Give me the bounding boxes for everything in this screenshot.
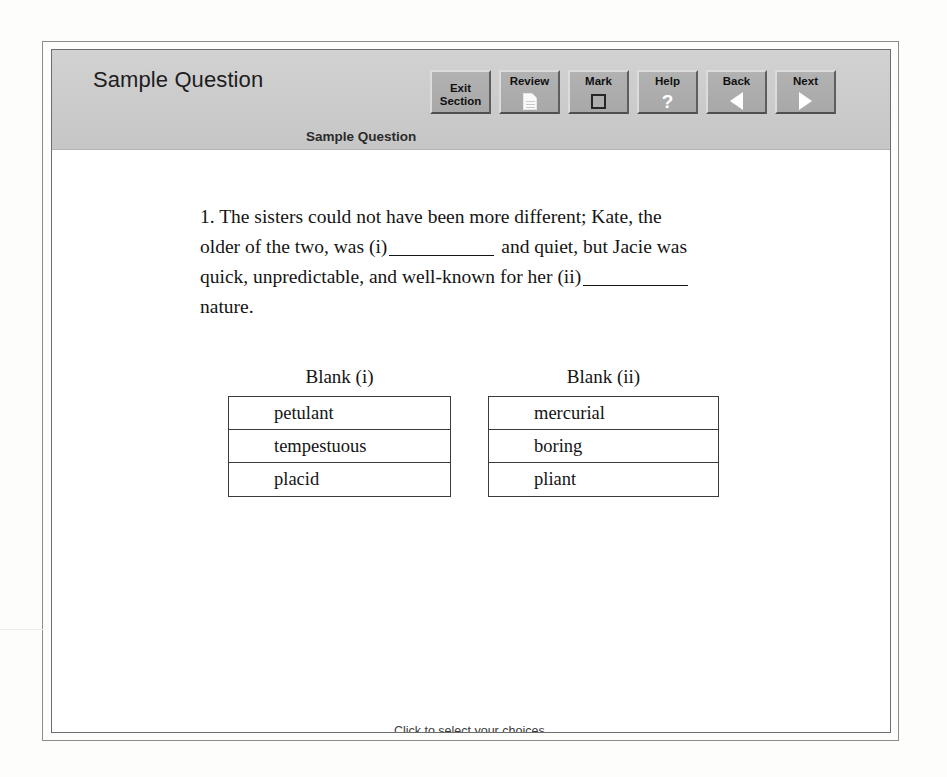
- header-bar: Sample Question Sample Question Exit Sec…: [52, 50, 890, 150]
- exit-section-label-line2: Section: [440, 95, 482, 108]
- exit-section-button[interactable]: Exit Section: [430, 70, 491, 114]
- arrow-right-icon: [799, 90, 812, 112]
- blank-i-option-1[interactable]: petulant: [229, 397, 450, 430]
- blank-ii-caption: Blank (ii): [488, 366, 719, 388]
- back-label: Back: [723, 75, 751, 88]
- page-title: Sample Question: [93, 67, 263, 93]
- blank-i-placeholder: [389, 255, 494, 256]
- checkbox-icon: [591, 90, 606, 112]
- blank-ii-placeholder: [583, 285, 688, 286]
- question-stem: 1. The sisters could not have been more …: [200, 202, 700, 322]
- blank-i-caption: Blank (i): [228, 366, 451, 388]
- question-content-area: 1. The sisters could not have been more …: [52, 150, 890, 732]
- mark-label: Mark: [585, 75, 612, 88]
- mark-button[interactable]: Mark: [568, 70, 629, 114]
- blank-i-group: Blank (i) petulant tempestuous placid: [228, 366, 451, 497]
- blank-i-option-table: petulant tempestuous placid: [228, 396, 451, 497]
- arrow-left-icon: [730, 90, 743, 112]
- question-mark-icon: ?: [662, 90, 674, 112]
- next-label: Next: [793, 75, 818, 88]
- help-label: Help: [655, 75, 680, 88]
- blank-i-option-3[interactable]: placid: [229, 463, 450, 496]
- blank-ii-option-table: mercurial boring pliant: [488, 396, 719, 497]
- next-button[interactable]: Next: [775, 70, 836, 114]
- blank-ii-group: Blank (ii) mercurial boring pliant: [488, 366, 719, 497]
- back-button[interactable]: Back: [706, 70, 767, 114]
- question-number: 1.: [200, 206, 215, 227]
- blank-ii-option-1[interactable]: mercurial: [489, 397, 718, 430]
- help-button[interactable]: Help ?: [637, 70, 698, 114]
- review-label: Review: [510, 75, 550, 88]
- blank-ii-option-3[interactable]: pliant: [489, 463, 718, 496]
- test-window: Sample Question Sample Question Exit Sec…: [51, 49, 891, 733]
- document-icon: [523, 90, 537, 112]
- blank-ii-option-2[interactable]: boring: [489, 430, 718, 463]
- scan-artifact-line: [0, 629, 44, 630]
- question-text-part-3: nature.: [200, 296, 254, 317]
- toolbar: Exit Section Review Mark Help ?: [430, 70, 836, 114]
- instruction-text: Click to select your choices.: [52, 724, 890, 733]
- exit-section-label-line1: Exit: [450, 75, 471, 95]
- review-button[interactable]: Review: [499, 70, 560, 114]
- blank-i-option-2[interactable]: tempestuous: [229, 430, 450, 463]
- header-subtitle: Sample Question: [306, 129, 416, 144]
